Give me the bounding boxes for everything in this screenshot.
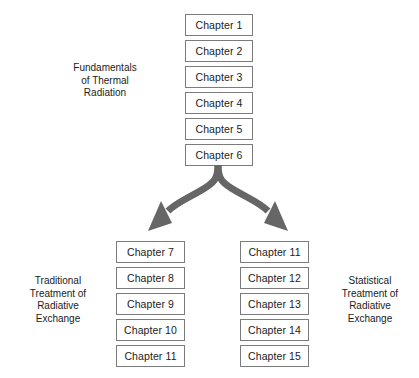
chapter-box-15[interactable]: Chapter 15 xyxy=(240,345,309,367)
chapter-box-3[interactable]: Chapter 3 xyxy=(185,66,253,88)
chapter-organization-diagram: Chapter 1 Chapter 2 Chapter 3 Chapter 4 … xyxy=(0,0,419,378)
label-statistical-treatment-of-radiative-exchange: Statistical Treatment of Radiative Excha… xyxy=(322,275,418,325)
chapter-box-2[interactable]: Chapter 2 xyxy=(185,40,253,62)
chapter-box-11-left[interactable]: Chapter 11 xyxy=(116,345,185,367)
chapter-box-4[interactable]: Chapter 4 xyxy=(185,92,253,114)
chapter-box-8[interactable]: Chapter 8 xyxy=(116,267,185,289)
chapter-box-1[interactable]: Chapter 1 xyxy=(185,14,253,36)
chapter-box-11-right[interactable]: Chapter 11 xyxy=(240,241,309,263)
chapter-box-14[interactable]: Chapter 14 xyxy=(240,319,309,341)
chapter-box-12[interactable]: Chapter 12 xyxy=(240,267,309,289)
chapter-box-10[interactable]: Chapter 10 xyxy=(116,319,185,341)
chapter-box-5[interactable]: Chapter 5 xyxy=(185,118,253,140)
chapter-box-9[interactable]: Chapter 9 xyxy=(116,293,185,315)
split-arrow-icon xyxy=(128,163,308,241)
label-traditional-treatment-of-radiative-exchange: Traditional Treatment of Radiative Excha… xyxy=(6,275,110,325)
label-fundamentals-of-thermal-radiation: Fundamentals of Thermal Radiation xyxy=(42,62,168,100)
chapter-box-7[interactable]: Chapter 7 xyxy=(116,241,185,263)
chapter-box-13[interactable]: Chapter 13 xyxy=(240,293,309,315)
